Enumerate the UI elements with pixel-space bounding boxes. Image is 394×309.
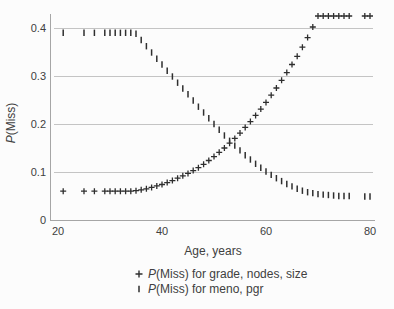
- plus-marker: [263, 99, 269, 105]
- plus-marker: [159, 182, 165, 188]
- plus-marker: [237, 130, 243, 136]
- plus-marker: [221, 145, 227, 151]
- plus-marker: [169, 178, 175, 184]
- legend-item-meno-pgr: P(Miss) for meno, pgr: [133, 281, 307, 296]
- legend: P(Miss) for grade, nodes, size P(Miss) f…: [133, 266, 307, 296]
- plus-marker: [185, 170, 191, 176]
- legend-item-grade-nodes-size: P(Miss) for grade, nodes, size: [133, 266, 307, 281]
- y-tick-label: 0.1: [8, 166, 46, 179]
- plus-marker: [315, 13, 321, 19]
- plus-marker: [175, 175, 181, 181]
- plus-marker: [81, 188, 87, 194]
- plus-marker: [299, 44, 305, 50]
- vbar-marker-icon: [133, 283, 145, 295]
- plus-marker: [149, 184, 155, 190]
- plus-marker: [258, 106, 264, 112]
- plus-marker: [305, 35, 311, 41]
- plus-marker: [102, 188, 108, 194]
- scatter-plot-canvas: [0, 0, 394, 309]
- y-tick-label: 0.3: [8, 70, 46, 83]
- plus-marker: [242, 124, 248, 130]
- y-tick-label: 0.4: [8, 22, 46, 35]
- plus-marker: [154, 183, 160, 189]
- plus-marker: [232, 135, 238, 141]
- plus-marker: [284, 70, 290, 76]
- plus-marker: [289, 62, 295, 68]
- plus-marker: [91, 188, 97, 194]
- plus-marker: [107, 188, 113, 194]
- plus-marker: [195, 165, 201, 171]
- plus-marker: [362, 13, 368, 19]
- plus-marker: [143, 186, 149, 192]
- x-tick-label: 20: [38, 225, 78, 238]
- plus-marker: [253, 112, 259, 118]
- plus-marker: [341, 13, 347, 19]
- plus-marker: [206, 158, 212, 164]
- plus-marker: [180, 173, 186, 179]
- plus-marker: [138, 187, 144, 193]
- plus-marker: [60, 188, 66, 194]
- plus-marker: [320, 13, 326, 19]
- x-axis-title: Age, years: [184, 244, 241, 258]
- plus-marker-icon: [133, 268, 145, 280]
- plus-marker: [211, 154, 217, 160]
- figure: P(Miss) Age, years P(Miss) for grade, no…: [0, 0, 394, 309]
- plus-marker: [112, 188, 118, 194]
- x-tick-label: 40: [142, 225, 182, 238]
- plus-marker: [346, 13, 352, 19]
- plus-marker: [367, 13, 373, 19]
- plus-marker: [216, 149, 222, 155]
- plus-marker: [247, 119, 253, 125]
- plus-marker: [123, 188, 129, 194]
- plus-marker: [201, 161, 207, 167]
- plus-marker: [128, 188, 134, 194]
- x-tick-label: 80: [350, 225, 390, 238]
- plus-marker: [268, 92, 274, 98]
- plus-marker: [133, 188, 139, 194]
- plus-marker: [310, 24, 316, 30]
- plus-marker: [273, 85, 279, 91]
- plus-marker: [279, 77, 285, 83]
- x-tick-label: 60: [246, 225, 286, 238]
- legend-item-label: P(Miss) for meno, pgr: [148, 282, 263, 296]
- legend-item-label: P(Miss) for grade, nodes, size: [148, 267, 307, 281]
- plus-marker: [164, 180, 170, 186]
- plus-marker: [294, 53, 300, 59]
- plus-marker: [325, 13, 331, 19]
- plus-marker: [117, 188, 123, 194]
- y-axis-title-italic: P: [4, 135, 18, 143]
- plus-marker: [336, 13, 342, 19]
- y-tick-label: 0.2: [8, 118, 46, 131]
- plus-marker: [331, 13, 337, 19]
